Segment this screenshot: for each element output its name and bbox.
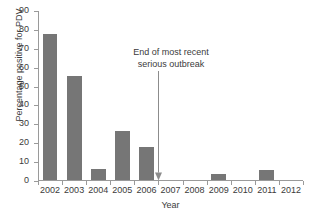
y-axis-tick-label: 10 [19,156,29,167]
bar-chart: Percentage positive for PDV 010203040506… [0,0,318,220]
y-axis-tick: 30 [34,124,39,125]
y-axis-tick-label: 90 [19,5,29,16]
y-axis-tick: 10 [34,162,39,163]
x-axis-tick-labels: 2002200320042005200620072008200920102011… [38,184,303,198]
y-axis-tick: 80 [34,30,39,31]
y-axis-tick-label: 80 [19,24,29,35]
annotation-line-2: serious outbreak [116,59,226,71]
down-arrow-icon [154,71,163,181]
x-axis-line [38,180,303,181]
y-axis-tick: 60 [34,68,39,69]
y-axis-tick: 70 [34,49,39,50]
y-axis-tick-label: 40 [19,99,29,110]
bar [115,131,130,180]
bar [139,147,154,180]
y-axis-tick-label: 30 [19,118,29,129]
y-axis-tick: 90 [34,11,39,12]
x-axis-title: Year [38,199,303,211]
y-axis-line [38,11,39,181]
bar [91,169,106,180]
annotation-line-1: End of most recent [116,47,226,59]
y-axis-tick: 50 [34,87,39,88]
y-axis-tick-label: 20 [19,137,29,148]
y-axis-tick-label: 50 [19,81,29,92]
bar [211,174,226,180]
y-axis-tick: 20 [34,143,39,144]
bar [259,170,274,180]
plot-area: 0102030405060708090 End of most recent s… [38,11,303,181]
y-axis-tick: 40 [34,105,39,106]
x-axis-tick-label: 2012 [271,184,311,196]
bar [43,34,58,180]
y-axis-tick-label: 70 [19,43,29,54]
y-axis-tick-label: 60 [19,62,29,73]
y-axis-tick-label: 0 [24,175,29,186]
bar [67,76,82,180]
annotation-label: End of most recent serious outbreak [116,47,226,70]
